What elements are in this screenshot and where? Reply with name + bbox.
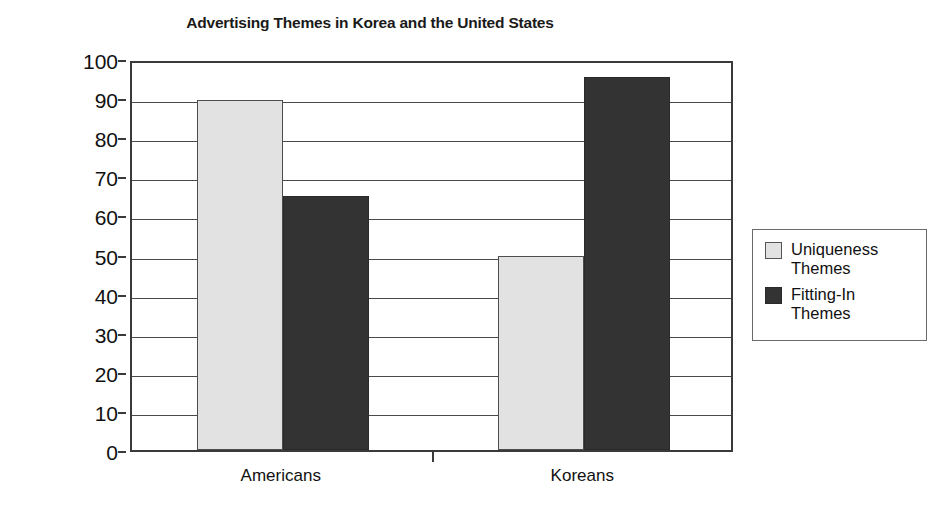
bar: [584, 77, 670, 450]
y-axis-tick-mark: [118, 177, 126, 179]
chart-figure: Advertising Themes in Korea and the Unit…: [0, 0, 945, 509]
y-axis-tick-label: 90: [95, 90, 118, 111]
y-axis-tick-mark: [118, 451, 126, 453]
legend-item: UniquenessThemes: [765, 240, 926, 278]
y-axis-tick-mark: [118, 373, 126, 375]
legend-item-label: Fitting-InThemes: [791, 285, 855, 323]
legend-item-label: UniquenessThemes: [791, 240, 878, 278]
x-axis-group-label: Koreans: [551, 466, 614, 486]
y-axis-tick-label: 70: [95, 168, 118, 189]
y-axis-tick-mark: [118, 334, 126, 336]
y-axis-tick-label: 60: [95, 207, 118, 228]
legend-item: Fitting-InThemes: [765, 285, 926, 323]
y-axis-tick-mark: [118, 60, 126, 62]
chart-legend: UniquenessThemesFitting-InThemes: [752, 229, 927, 341]
x-axis-tick-mark: [432, 452, 434, 462]
legend-swatch-icon: [765, 287, 782, 304]
y-axis-tick-mark: [118, 412, 126, 414]
y-axis-tick-mark: [118, 99, 126, 101]
legend-item-label-line-1: Fitting-In: [791, 285, 855, 304]
legend-swatch-icon: [765, 242, 782, 259]
y-axis-tick-label: 80: [95, 129, 118, 150]
y-axis-tick-mark: [118, 216, 126, 218]
plot-area: [130, 61, 733, 452]
y-axis-tick-label: 20: [95, 363, 118, 384]
x-axis-group-label: Americans: [241, 466, 321, 486]
legend-item-label-line-2: Themes: [791, 259, 878, 278]
bar: [197, 100, 283, 450]
chart-title: Advertising Themes in Korea and the Unit…: [0, 14, 740, 32]
y-axis-tick-labels: 1009080706050403020100: [48, 61, 126, 452]
bar: [283, 196, 369, 450]
y-axis-tick-mark: [118, 295, 126, 297]
legend-item-label-line-2: Themes: [791, 304, 855, 323]
legend-item-label-line-1: Uniqueness: [791, 240, 878, 259]
y-axis-tick-label: 10: [95, 402, 118, 423]
y-axis-tick-label: 0: [106, 442, 118, 463]
y-axis-tick-label: 50: [95, 246, 118, 267]
y-axis-title: Percentage of Ads Containing Each Theme: [2, 60, 48, 452]
bar: [498, 256, 584, 450]
y-axis-tick-mark: [118, 138, 126, 140]
y-axis-tick-label: 30: [95, 324, 118, 345]
y-axis-tick-label: 100: [83, 51, 118, 72]
y-axis-tick-label: 40: [95, 285, 118, 306]
y-axis-tick-mark: [118, 256, 126, 258]
